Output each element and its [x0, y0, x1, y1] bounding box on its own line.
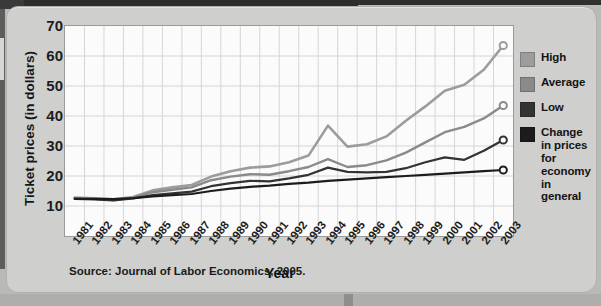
- y-tick-label: 20: [46, 168, 63, 183]
- y-tick-label: 50: [46, 78, 63, 93]
- y-axis-title-wrap: Ticket prices (in dollars): [15, 27, 37, 222]
- y-tick-label: 70: [46, 18, 63, 33]
- legend-item: Change in prices for economy in general: [520, 126, 594, 203]
- scan-edge-band-top-right: [358, 0, 601, 5]
- endpoint-marker: [500, 136, 507, 143]
- gridlines-vertical: [84, 26, 493, 236]
- line-chart-svg: [65, 26, 513, 236]
- legend-label: Change in prices for economy in general: [541, 126, 594, 203]
- scan-edge-bottom-notch: [344, 294, 353, 306]
- y-tick-label: 40: [46, 108, 63, 123]
- series-line-average: [75, 106, 504, 201]
- chart-panel: Ticket prices (in dollars) 7060504030201…: [6, 6, 597, 293]
- endpoint-marker: [500, 102, 507, 109]
- endpoint-marker: [500, 42, 507, 49]
- legend-label: High: [541, 51, 566, 64]
- legend-swatch: [520, 52, 535, 67]
- legend-item: High: [520, 51, 594, 67]
- legend-label: Low: [541, 101, 564, 114]
- y-tick-label: 60: [46, 48, 63, 63]
- legend-swatch: [520, 127, 535, 142]
- y-axis-tick-labels: 70605040302010: [37, 15, 63, 247]
- y-tick-label: 10: [46, 198, 63, 213]
- endpoint-marker: [500, 166, 507, 173]
- legend-label: Average: [541, 76, 585, 89]
- y-tick-label: 30: [46, 138, 63, 153]
- source-note: Source: Journal of Labor Economics, 2005…: [69, 265, 305, 277]
- scan-edge-left-highlight: [0, 38, 4, 80]
- scan-edge-bottom: [0, 294, 601, 306]
- legend-swatch: [520, 77, 535, 92]
- legend-swatch: [520, 102, 535, 117]
- legend-item: Average: [520, 76, 594, 92]
- plot-area: [64, 25, 514, 237]
- chart-legend: HighAverageLowChange in prices for econo…: [520, 51, 594, 212]
- legend-item: Low: [520, 101, 594, 117]
- y-axis-title: Ticket prices (in dollars): [22, 29, 37, 229]
